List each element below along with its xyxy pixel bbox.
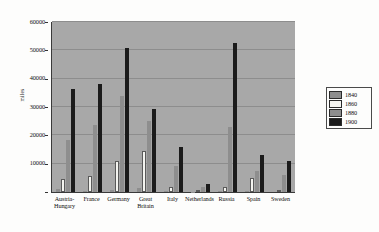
bar-1860 [88, 176, 92, 192]
legend-item-1860[interactable]: 1860 [329, 99, 369, 108]
bar-1900 [206, 184, 210, 192]
bar-1880 [66, 140, 70, 192]
y-axis-tick-10000: 10000 [30, 160, 45, 166]
bar-1860 [61, 179, 65, 192]
legend-item-1840[interactable]: 1840 [329, 90, 369, 99]
chart-legend: 1840186018801900 [326, 87, 372, 129]
bar-1860 [169, 187, 173, 192]
bar-1840 [137, 188, 141, 192]
x-axis-tick-label: Sweden [263, 195, 298, 202]
bar-1880 [282, 175, 286, 192]
bar-1900 [287, 161, 291, 192]
legend-swatch-icon [329, 118, 342, 126]
bar-1840 [56, 189, 60, 192]
legend-swatch-icon [329, 91, 342, 99]
bar-group [160, 22, 187, 192]
y-axis-tick-mark [45, 50, 48, 51]
bar-1880 [174, 166, 178, 192]
y-axis-tick-mark [45, 22, 48, 23]
bar-1900 [71, 89, 75, 192]
plot-area [51, 22, 295, 193]
legend-swatch-icon [329, 109, 342, 117]
legend-label: 1860 [345, 100, 357, 107]
bar-group [52, 22, 79, 192]
bar-1880 [93, 125, 97, 192]
bar-group [187, 22, 214, 192]
y-axis-tick-40000: 40000 [30, 75, 45, 81]
legend-label: 1900 [345, 118, 357, 125]
y-axis-tick-mark [45, 79, 48, 80]
y-axis-tick-20000: 20000 [30, 132, 45, 138]
bar-1900 [233, 43, 237, 192]
bar-group [133, 22, 160, 192]
y-axis-tick-mark [45, 135, 48, 136]
bar-1900 [179, 147, 183, 192]
x-axis-tick-labels: Austria-HungaryFranceGermanyGreatBritain… [51, 195, 294, 229]
y-axis-tick-labels: 100002000030000400005000060000 [0, 0, 48, 232]
bar-1860 [223, 187, 227, 192]
y-axis-tick-60000: 60000 [30, 19, 45, 25]
y-axis-tick-50000: 50000 [30, 47, 45, 53]
bar-1900 [152, 109, 156, 192]
y-axis-tick-mark [45, 164, 48, 165]
legend-label: 1840 [345, 91, 357, 98]
bar-1840 [218, 191, 222, 192]
y-axis-tick-mark [45, 192, 48, 193]
bar-group [79, 22, 106, 192]
bar-1880 [147, 121, 151, 192]
bar-1840 [83, 191, 87, 192]
bar-1860 [250, 178, 254, 192]
bar-1880 [228, 127, 232, 192]
legend-label: 1880 [345, 109, 357, 116]
chart-figure: miles 100002000030000400005000060000 Aus… [0, 0, 379, 232]
bar-group [106, 22, 133, 192]
bar-1900 [260, 155, 264, 192]
legend-swatch-icon [329, 100, 342, 108]
bar-1860 [115, 161, 119, 192]
bar-1880 [255, 171, 259, 192]
legend-item-1900[interactable]: 1900 [329, 117, 369, 126]
bar-1880 [201, 187, 205, 192]
y-axis-tick-mark [45, 107, 48, 108]
bar-1900 [98, 84, 102, 192]
bar-1840 [164, 191, 168, 192]
bar-group [241, 22, 268, 192]
bar-1840 [110, 190, 114, 192]
bar-1860 [196, 190, 200, 192]
bar-1840 [191, 192, 195, 193]
bar-group [268, 22, 295, 192]
bar-1880 [120, 96, 124, 192]
bar-group [214, 22, 241, 192]
bar-1900 [125, 48, 129, 193]
legend-item-1880[interactable]: 1880 [329, 108, 369, 117]
bar-1860 [277, 190, 281, 192]
bar-1840 [245, 191, 249, 192]
y-axis-tick-30000: 30000 [30, 104, 45, 110]
bar-1860 [142, 151, 146, 192]
